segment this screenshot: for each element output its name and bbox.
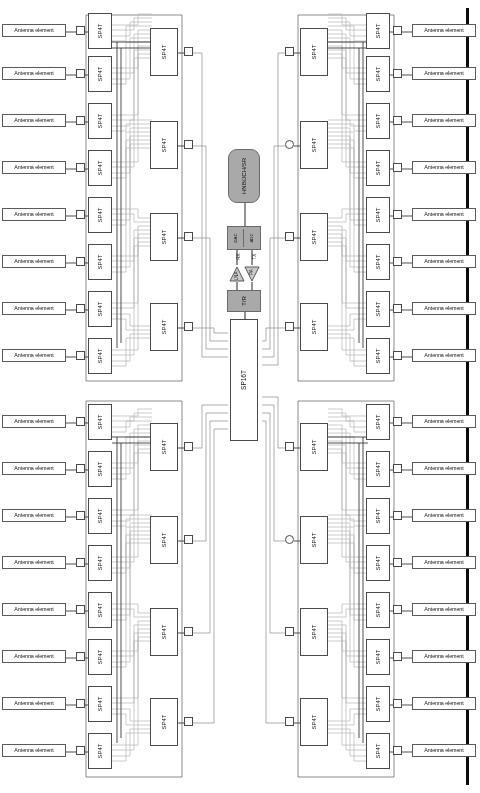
sp4t-switch-stage2[interactable]: SP4T [300, 28, 328, 76]
junction-node[interactable] [184, 443, 193, 452]
sp4t-switch[interactable]: SP4T [366, 56, 390, 92]
junction-node[interactable] [76, 700, 85, 709]
junction-node[interactable] [393, 700, 402, 709]
junction-node[interactable] [393, 653, 402, 662]
junction-node[interactable] [393, 418, 402, 427]
antenna-element[interactable]: Antenna element [2, 651, 66, 664]
junction-node[interactable] [285, 443, 294, 452]
sp4t-switch[interactable]: SP4T [366, 451, 390, 487]
sp4t-switch[interactable]: SP4T [88, 498, 112, 534]
junction-node[interactable] [76, 418, 85, 427]
sp4t-switch[interactable]: SP4T [366, 197, 390, 233]
junction-node[interactable] [393, 211, 402, 220]
sp4t-switch-stage2[interactable]: SP4T [150, 213, 178, 261]
sp4t-switch[interactable]: SP4T [366, 545, 390, 581]
sp4t-switch[interactable]: SP4T [366, 338, 390, 374]
junction-node[interactable] [184, 536, 193, 545]
antenna-element[interactable]: Antenna element [2, 25, 66, 38]
junction-node[interactable] [393, 747, 402, 756]
junction-node[interactable] [285, 233, 294, 242]
sp4t-switch-stage2[interactable]: SP4T [300, 516, 328, 564]
antenna-element[interactable]: Antenna element [2, 557, 66, 570]
sp4t-switch[interactable]: SP4T [88, 733, 112, 769]
junction-node[interactable] [393, 258, 402, 267]
antenna-element[interactable]: Antenna element [412, 162, 476, 175]
antenna-element[interactable]: Antenna element [2, 416, 66, 429]
junction-node[interactable] [393, 164, 402, 173]
tr-switch-block[interactable]: T/R [227, 290, 261, 312]
sp4t-switch[interactable]: SP4T [366, 592, 390, 628]
converter-block[interactable]: ADC DAC [227, 226, 261, 250]
sp4t-switch-stage2[interactable]: SP4T [300, 213, 328, 261]
junction-node[interactable] [393, 70, 402, 79]
junction-node[interactable] [76, 747, 85, 756]
junction-node[interactable] [76, 653, 85, 662]
sp4t-switch[interactable]: SP4T [88, 13, 112, 49]
sp4t-switch-stage2[interactable]: SP4T [300, 608, 328, 656]
sp4t-switch[interactable]: SP4T [88, 639, 112, 675]
sp4t-switch[interactable]: SP4T [366, 686, 390, 722]
junction-node[interactable] [393, 117, 402, 126]
sp4t-switch-stage2[interactable]: SP4T [300, 303, 328, 351]
sp4t-switch[interactable]: SP4T [366, 150, 390, 186]
antenna-element[interactable]: Antenna element [412, 463, 476, 476]
sp4t-switch-stage2[interactable]: SP4T [150, 303, 178, 351]
junction-node[interactable] [285, 628, 294, 637]
sp4t-switch[interactable]: SP4T [88, 338, 112, 374]
sp4t-switch-stage2[interactable]: SP4T [300, 121, 328, 169]
dac-block[interactable]: DAC [228, 227, 244, 249]
junction-node[interactable] [393, 512, 402, 521]
antenna-element[interactable]: Antenna element [2, 68, 66, 81]
antenna-element[interactable]: Antenna element [2, 698, 66, 711]
antenna-element[interactable]: Antenna element [412, 557, 476, 570]
antenna-element[interactable]: Antenna element [2, 463, 66, 476]
sp4t-switch-stage2[interactable]: SP4T [150, 423, 178, 471]
junction-node[interactable] [76, 258, 85, 267]
antenna-element[interactable]: Antenna element [412, 416, 476, 429]
junction-node[interactable] [184, 233, 193, 242]
sp4t-switch[interactable]: SP4T [88, 592, 112, 628]
sp4t-switch[interactable]: SP4T [366, 733, 390, 769]
antenna-element[interactable]: Antenna element [2, 510, 66, 523]
antenna-element[interactable]: Antenna element [412, 651, 476, 664]
junction-node[interactable] [76, 305, 85, 314]
antenna-element[interactable]: Antenna element [412, 68, 476, 81]
antenna-element[interactable]: Antenna element [2, 604, 66, 617]
junction-node[interactable] [184, 48, 193, 57]
antenna-element[interactable]: Antenna element [2, 256, 66, 269]
antenna-element[interactable]: Antenna element [2, 350, 66, 363]
junction-node[interactable] [285, 141, 294, 150]
power-amplifier[interactable]: PA [244, 266, 260, 282]
antenna-element[interactable]: Antenna element [412, 25, 476, 38]
junction-node[interactable] [393, 27, 402, 36]
junction-node[interactable] [76, 164, 85, 173]
antenna-element[interactable]: Antenna element [412, 209, 476, 222]
sp4t-switch[interactable]: SP4T [366, 498, 390, 534]
sp4t-switch-stage2[interactable]: SP4T [150, 698, 178, 746]
junction-node[interactable] [184, 628, 193, 637]
antenna-element[interactable]: Antenna element [412, 698, 476, 711]
antenna-element[interactable]: Antenna element [2, 115, 66, 128]
sp16t-switch[interactable]: SP16T [230, 319, 258, 441]
junction-node[interactable] [76, 27, 85, 36]
antenna-element[interactable]: Antenna element [412, 256, 476, 269]
junction-node[interactable] [76, 70, 85, 79]
sp4t-switch[interactable]: SP4T [88, 451, 112, 487]
sp4t-switch-stage2[interactable]: SP4T [150, 121, 178, 169]
sp4t-switch[interactable]: SP4T [88, 686, 112, 722]
sp4t-switch[interactable]: SP4T [88, 103, 112, 139]
junction-node[interactable] [76, 512, 85, 521]
sp4t-switch-stage2[interactable]: SP4T [300, 698, 328, 746]
sp4t-switch[interactable]: SP4T [366, 13, 390, 49]
junction-node[interactable] [184, 141, 193, 150]
junction-node[interactable] [76, 559, 85, 568]
sp4t-switch[interactable]: SP4T [88, 291, 112, 327]
junction-node[interactable] [285, 48, 294, 57]
sp4t-switch[interactable]: SP4T [366, 291, 390, 327]
junction-node[interactable] [76, 606, 85, 615]
sp4t-switch[interactable]: SP4T [88, 197, 112, 233]
junction-node[interactable] [393, 465, 402, 474]
junction-node[interactable] [184, 718, 193, 727]
sp4t-switch-stage2[interactable]: SP4T [300, 423, 328, 471]
junction-node[interactable] [393, 606, 402, 615]
